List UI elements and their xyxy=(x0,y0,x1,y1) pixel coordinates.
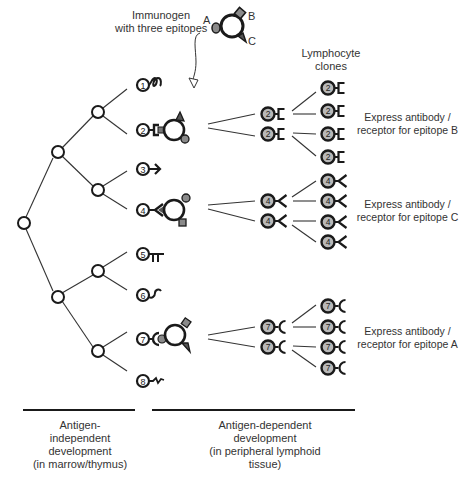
precursor-5-number: 5 xyxy=(140,250,145,260)
clone-7-family xyxy=(262,300,346,375)
precursor-8-number: 8 xyxy=(140,377,145,387)
epitope-c-description: Express antibody / receptor for epitope … xyxy=(350,198,465,224)
progenitor-nodes xyxy=(18,106,104,357)
arrow-head-icon xyxy=(189,78,198,88)
precursor-number-labels: 1 2 3 4 5 6 7 8 xyxy=(140,81,145,387)
svg-text:7: 7 xyxy=(326,363,331,373)
clone-2-family xyxy=(262,82,345,164)
precursor-1-number: 1 xyxy=(140,81,145,91)
precursor-3-number: 3 xyxy=(140,165,145,175)
epitope-b-description: Express antibody / receptor for epitope … xyxy=(350,111,465,137)
precursor-2-number: 2 xyxy=(140,126,145,136)
svg-text:4: 4 xyxy=(266,216,271,226)
phase-label-dependent: Antigen-dependent development (in periph… xyxy=(200,419,330,471)
svg-text:2: 2 xyxy=(266,129,271,139)
svg-text:7: 7 xyxy=(326,342,331,352)
svg-text:4: 4 xyxy=(326,237,331,247)
svg-text:2: 2 xyxy=(326,152,331,162)
epitope-b-label: B xyxy=(248,10,255,22)
svg-text:7: 7 xyxy=(266,322,271,332)
svg-text:2: 2 xyxy=(326,106,331,116)
epitope-a-label: A xyxy=(203,14,210,26)
svg-text:4: 4 xyxy=(326,217,331,227)
lymphocyte-clones-header: Lymphocyte clones xyxy=(298,47,364,73)
precursor-4-number: 4 xyxy=(140,206,145,216)
svg-text:7: 7 xyxy=(326,322,331,332)
precursor-7-number: 7 xyxy=(140,335,145,345)
svg-text:7: 7 xyxy=(326,301,331,311)
svg-text:2: 2 xyxy=(266,109,271,119)
clonal-selection-diagram: 1 2 3 4 5 6 7 8 xyxy=(0,0,465,479)
clone-4-family xyxy=(262,175,347,249)
epitope-a-description: Express antibody / receptor for epitope … xyxy=(350,325,465,351)
curved-arrow xyxy=(193,33,200,80)
lineage-tree xyxy=(26,89,127,371)
svg-text:4: 4 xyxy=(326,176,331,186)
epitope-c-label: C xyxy=(248,35,256,47)
svg-text:7: 7 xyxy=(266,342,271,352)
svg-text:2: 2 xyxy=(326,129,331,139)
immunogen-icon xyxy=(212,7,246,42)
precursor-6-number: 6 xyxy=(140,291,145,301)
svg-text:2: 2 xyxy=(326,83,331,93)
svg-text:4: 4 xyxy=(266,196,271,206)
svg-text:4: 4 xyxy=(326,196,331,206)
phase-label-independent: Antigen- independent development (in mar… xyxy=(24,419,136,471)
immunogen-label: Immunogen with three epitopes xyxy=(115,9,207,35)
